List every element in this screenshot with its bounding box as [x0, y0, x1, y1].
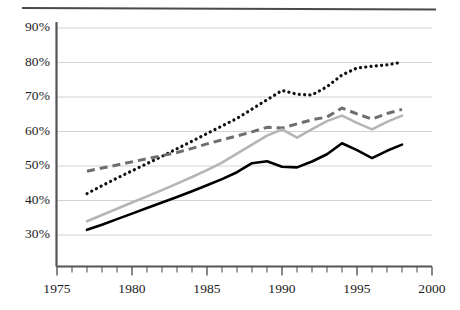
axis-lines-group	[57, 22, 433, 267]
chart-figure: 30%40%50%60%70%80%90% 197519801985199019…	[0, 0, 460, 310]
y-tick-label-70%: 70%	[6, 88, 50, 104]
x-tick-label-1985: 1985	[184, 281, 230, 297]
series-line-black-solid-series	[87, 143, 402, 230]
x-tick-label-1980: 1980	[109, 281, 155, 297]
y-tick-label-30%: 30%	[6, 226, 50, 242]
gridlines-group	[57, 28, 433, 235]
x-tick-label-2000: 2000	[409, 281, 455, 297]
y-tick-label-40%: 40%	[6, 192, 50, 208]
y-tick-label-80%: 80%	[6, 54, 50, 70]
x-tick-marks-group	[57, 267, 432, 276]
series-line-dotted-series	[87, 62, 402, 193]
y-tick-label-90%: 90%	[6, 19, 50, 35]
series-line-dashed-series	[87, 108, 402, 171]
x-tick-label-1975: 1975	[34, 281, 80, 297]
line-chart-plot	[0, 0, 460, 310]
y-tick-label-60%: 60%	[6, 123, 50, 139]
x-tick-label-1990: 1990	[259, 281, 305, 297]
x-tick-label-1995: 1995	[334, 281, 380, 297]
y-tick-label-50%: 50%	[6, 157, 50, 173]
data-series-group	[87, 62, 402, 230]
